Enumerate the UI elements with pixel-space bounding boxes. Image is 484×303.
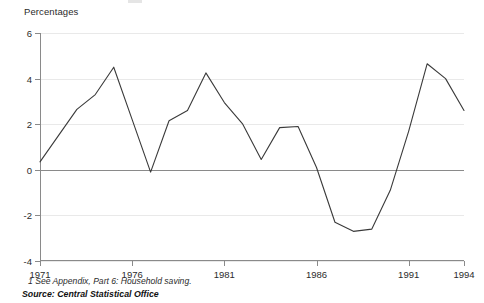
y-axis-unit-title: Percentages	[24, 6, 78, 17]
y-axis-tick-label: -4	[24, 256, 32, 267]
x-axis-tick	[464, 261, 465, 266]
x-axis-tick	[317, 261, 318, 266]
footnote-text: 1 See Appendix, Part 6: Household saving…	[28, 276, 192, 286]
x-axis-tick-label: 1991	[398, 269, 419, 280]
gridline	[40, 261, 464, 262]
data-line-series	[40, 33, 464, 261]
x-axis-tick-label: 1981	[214, 269, 235, 280]
cropped-title-artifact	[128, 0, 142, 3]
y-axis-tick-label: 6	[27, 28, 32, 39]
x-axis-tick	[132, 261, 133, 266]
plot-area: 6420-2-4 197119761981198619911994	[40, 33, 464, 261]
y-axis-tick-label: 0	[27, 164, 32, 175]
y-axis-tick-label: -2	[24, 210, 32, 221]
source-text: Source: Central Statistical Office	[22, 289, 159, 299]
x-axis-tick-label: 1994	[453, 269, 474, 280]
y-axis-tick-label: 2	[27, 119, 32, 130]
x-axis-tick	[40, 261, 41, 266]
x-axis-tick-label: 1986	[306, 269, 327, 280]
chart-figure: Percentages 6420-2-4 1971197619811986199…	[0, 0, 484, 303]
series-household-saving	[40, 64, 464, 232]
x-axis-tick	[224, 261, 225, 266]
x-axis-tick	[409, 261, 410, 266]
y-axis-tick-label: 4	[27, 73, 32, 84]
